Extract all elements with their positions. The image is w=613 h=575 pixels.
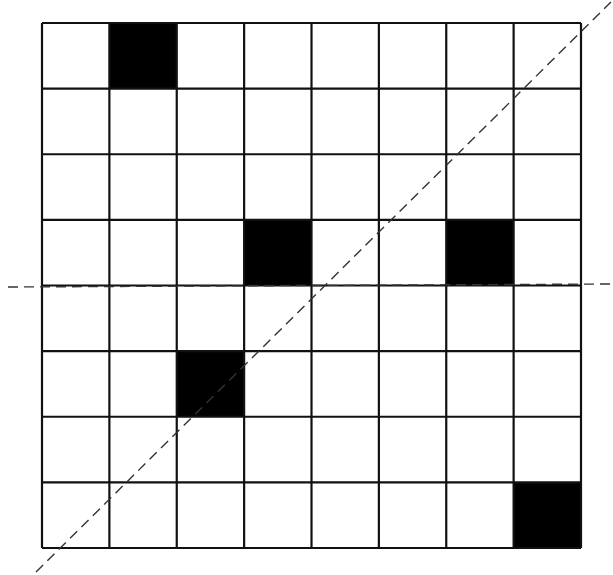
filled-cell xyxy=(514,482,581,548)
filled-cell xyxy=(244,220,311,286)
filled-cell xyxy=(109,23,176,89)
filled-cell xyxy=(446,220,513,286)
symmetry-grid-diagram xyxy=(0,0,613,575)
grid-lines xyxy=(42,23,581,548)
filled-cell xyxy=(177,351,244,417)
